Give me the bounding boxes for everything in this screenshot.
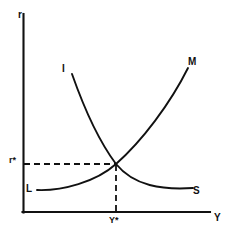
- curve-label-s: S: [193, 186, 200, 196]
- equilibrium-income-label: Y*: [109, 216, 119, 225]
- y-axis-label: r: [18, 10, 22, 20]
- curve-label-i: I: [62, 64, 65, 74]
- liquidity-money-curve: [37, 68, 188, 190]
- x-axis-label: Y: [214, 213, 221, 223]
- curve-label-l: L: [26, 184, 32, 194]
- economics-diagram: r Y I M L S r* Y*: [0, 0, 236, 243]
- equilibrium-rate-label: r*: [9, 156, 16, 165]
- curve-label-m: M: [188, 57, 196, 67]
- diagram-canvas: [0, 0, 236, 243]
